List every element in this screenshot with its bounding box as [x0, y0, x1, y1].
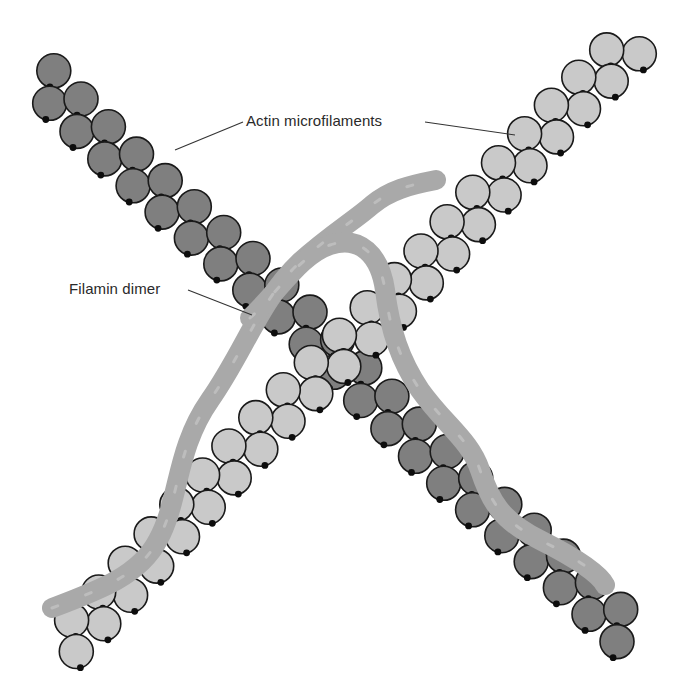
actin-monomer — [120, 137, 154, 171]
binding-site-dot — [97, 172, 104, 179]
actin-monomer — [239, 401, 273, 435]
binding-site-dot — [345, 379, 352, 386]
binding-site-dot — [557, 150, 564, 157]
actin-monomer — [371, 412, 405, 446]
actin-monomer — [294, 346, 328, 380]
actin-leader-right — [425, 122, 515, 135]
actin-monomer — [271, 404, 305, 438]
actin-monomer — [244, 432, 278, 466]
actin-monomer — [60, 114, 94, 148]
binding-site-dot — [584, 121, 591, 128]
binding-site-dot — [427, 296, 434, 303]
actin-monomer — [207, 216, 241, 250]
binding-site-dot — [42, 116, 49, 123]
actin-monomer — [482, 146, 516, 180]
actin-monomer — [600, 625, 634, 659]
actin-monomer — [88, 142, 122, 176]
actin-monomer — [174, 221, 208, 255]
actin-monomer — [191, 490, 225, 524]
binding-site-dot — [209, 520, 216, 527]
actin-monomer — [236, 242, 270, 276]
binding-site-dot — [524, 574, 531, 581]
binding-site-dot — [183, 549, 190, 556]
actin-monomer — [436, 237, 470, 271]
binding-site-dot — [155, 225, 162, 232]
binding-site-dot — [262, 462, 269, 469]
binding-site-dot — [381, 441, 388, 448]
binding-site-dot — [479, 237, 486, 244]
binding-site-dot — [465, 523, 472, 530]
actin-monomer — [91, 110, 125, 144]
actin-monomer — [344, 384, 378, 418]
binding-site-dot — [373, 352, 380, 359]
actin-monomer — [145, 195, 179, 229]
actin-monomer — [59, 635, 93, 669]
binding-site-dot — [495, 549, 502, 556]
actin-leader-left — [175, 122, 243, 150]
binding-site-dot — [213, 277, 220, 284]
binding-site-dot — [531, 179, 538, 186]
binding-site-dot — [582, 627, 589, 634]
actin-monomer — [430, 205, 464, 239]
actin-monomer — [64, 82, 98, 116]
binding-site-dot — [105, 636, 112, 643]
binding-site-dot — [408, 469, 415, 476]
actin-monomer — [562, 60, 596, 94]
binding-site-dot — [126, 199, 133, 206]
actin-monomer — [204, 247, 238, 281]
actin-monomer — [212, 429, 246, 463]
binding-site-dot — [436, 496, 443, 503]
actin-monomer — [540, 120, 574, 154]
actin-monomer — [404, 234, 438, 268]
actin-monomer — [513, 149, 547, 183]
actin-microfilaments-label: Actin microfilaments — [246, 112, 382, 129]
binding-site-dot — [612, 94, 619, 101]
diagram-canvas: Actin microfilaments Filamin dimer — [0, 0, 687, 674]
actin-monomer — [87, 607, 121, 641]
actin-monomer — [37, 54, 71, 88]
actin-monomer — [456, 175, 490, 209]
actin-monomer — [409, 266, 443, 300]
binding-site-dot — [271, 330, 278, 337]
binding-site-dot — [131, 608, 138, 615]
binding-site-dot — [289, 434, 296, 441]
actin-monomer — [594, 64, 628, 98]
actin-monomer — [327, 349, 361, 383]
binding-site-dot — [353, 413, 360, 420]
actin-monomer — [299, 377, 333, 411]
actin-monomer — [427, 466, 461, 500]
actin-monomer — [590, 33, 624, 67]
actin-monomer — [572, 597, 606, 631]
actin-monomer — [604, 592, 638, 626]
actin-monomer — [543, 571, 577, 605]
binding-site-dot — [70, 144, 77, 151]
binding-site-dot — [157, 579, 164, 586]
actin-monomer — [508, 117, 542, 151]
binding-site-dot — [453, 267, 460, 274]
actin-monomer — [622, 37, 656, 71]
binding-site-dot — [553, 600, 560, 607]
actin-monomer — [177, 190, 211, 224]
actin-monomer — [322, 318, 356, 352]
binding-site-dot — [610, 654, 617, 661]
binding-site-dot — [235, 491, 242, 498]
binding-site-dot — [184, 251, 191, 258]
actin-monomer — [399, 439, 433, 473]
binding-site-dot — [640, 67, 647, 74]
actin-monomer — [293, 295, 327, 329]
binding-site-dot — [505, 208, 512, 215]
filamin-dimer-label: Filamin dimer — [69, 280, 160, 297]
actin-monomer — [217, 461, 251, 495]
actin-monomer — [567, 92, 601, 126]
actin-monomer — [375, 379, 409, 413]
actin-monomer — [33, 86, 67, 120]
actin-monomer — [534, 88, 568, 122]
actin-monomer — [461, 208, 495, 242]
actin-monomer — [116, 169, 150, 203]
binding-site-dot — [77, 664, 84, 671]
actin-monomer — [148, 164, 182, 198]
actin-monomer — [487, 178, 521, 212]
actin-filamin-illustration — [0, 0, 687, 674]
binding-site-dot — [317, 406, 324, 413]
actin-monomer — [266, 373, 300, 407]
